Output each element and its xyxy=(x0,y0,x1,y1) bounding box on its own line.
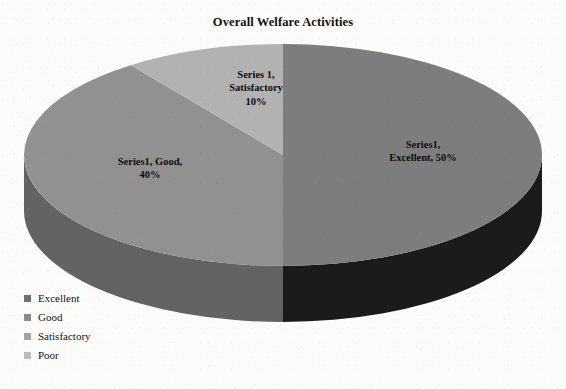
legend-item-good[interactable]: Good xyxy=(24,308,91,327)
legend-swatch-icon xyxy=(24,352,31,359)
legend-label: Excellent xyxy=(38,293,80,304)
legend-swatch-icon xyxy=(24,333,31,340)
legend-swatch-icon xyxy=(24,314,31,321)
legend-label: Poor xyxy=(38,350,59,361)
chart-title: Overall Welfare Activities xyxy=(0,15,566,30)
legend-item-excellent[interactable]: Excellent xyxy=(24,289,91,308)
slice-label-satisfactory: Series 1, Satisfactory 10% xyxy=(196,68,316,108)
legend-swatch-icon xyxy=(24,295,31,302)
legend-label: Satisfactory xyxy=(38,331,91,342)
legend-label: Good xyxy=(38,312,62,323)
legend-item-poor[interactable]: Poor xyxy=(24,346,91,365)
slice-label-good: Series1, Good, 40% xyxy=(72,155,228,182)
legend-item-satisfactory[interactable]: Satisfactory xyxy=(24,327,91,346)
chart-legend: Excellent Good Satisfactory Poor xyxy=(24,289,91,365)
chart-canvas: Overall Welfare Activities Series1, Exce… xyxy=(0,0,566,389)
slice-label-excellent: Series1, Excellent, 50% xyxy=(348,138,498,165)
